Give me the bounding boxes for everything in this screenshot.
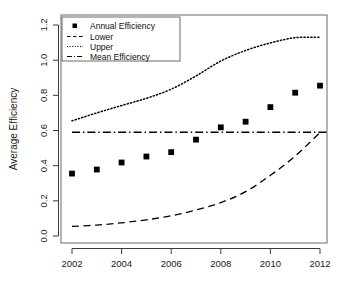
data-point-marker [144, 154, 150, 160]
data-point-marker [218, 124, 224, 130]
x-tick-label: 2008 [210, 258, 231, 269]
legend-label-annual-efficiency: Annual Efficiency [90, 21, 156, 31]
x-tick-label: 2012 [309, 258, 330, 269]
y-tick-label: 0.8 [38, 89, 49, 102]
legend-marker-annual-efficiency-icon [73, 24, 78, 29]
x-tick-label: 2006 [161, 258, 182, 269]
y-tick-label: 1.2 [38, 18, 49, 31]
y-tick-label: 0.0 [38, 229, 49, 242]
data-point-marker [69, 171, 75, 177]
data-point-marker [94, 167, 100, 173]
data-point-marker [168, 149, 174, 155]
chart-container: Average Efficiency 0.0 0.2 0.4 0.6 0.8 1… [0, 0, 343, 281]
y-tick-label: 1.0 [38, 54, 49, 67]
x-tick-label: 2010 [260, 258, 281, 269]
y-axis-title: Average Efficiency [8, 88, 19, 170]
legend-label-lower: Lower [90, 32, 113, 42]
data-point-marker [268, 104, 274, 110]
y-tick-label: 0.2 [38, 194, 49, 207]
data-point-marker [119, 160, 125, 166]
y-tick-label: 0.4 [38, 159, 49, 172]
data-point-marker [193, 137, 199, 143]
efficiency-scatter-chart: Average Efficiency 0.0 0.2 0.4 0.6 0.8 1… [0, 0, 343, 281]
y-tick-label: 0.6 [38, 124, 49, 137]
legend: Annual Efficiency Lower Upper Mean Effic… [62, 17, 180, 62]
data-point-marker [292, 90, 298, 96]
legend-label-mean-efficiency: Mean Efficiency [90, 52, 151, 62]
data-point-marker [243, 119, 249, 125]
x-tick-label: 2002 [61, 258, 82, 269]
legend-label-upper: Upper [90, 42, 113, 52]
x-tick-label: 2004 [111, 258, 132, 269]
data-point-marker [317, 83, 323, 89]
